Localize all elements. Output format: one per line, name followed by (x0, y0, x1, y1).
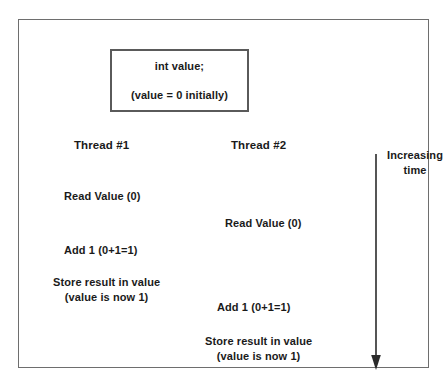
thread-2-header: Thread #2 (231, 139, 286, 151)
diagram-frame: int value; (value = 0 initially) Thread … (18, 19, 429, 368)
thread-1-step-store-result: Store result in value (value is now 1) (53, 275, 160, 305)
increasing-time-label-line-1: Increasing (385, 148, 445, 163)
thread-1-step-add-one: Add 1 (0+1=1) (64, 243, 137, 258)
increasing-time-arrow-icon (369, 152, 383, 372)
increasing-time-label: Increasing time (385, 148, 445, 178)
shared-variable-declaration: int value; (155, 60, 204, 73)
thread-2-step-add-one: Add 1 (0+1=1) (217, 300, 290, 315)
thread-1-header: Thread #1 (74, 139, 129, 151)
shared-variable-initial-note: (value = 0 initially) (131, 89, 228, 102)
thread-1-store-line-2: (value is now 1) (53, 290, 160, 305)
thread-2-store-line-2: (value is now 1) (205, 349, 312, 364)
increasing-time-label-line-2: time (385, 163, 445, 178)
thread-1-step-read-value: Read Value (0) (64, 189, 141, 204)
thread-1-store-line-1: Store result in value (53, 276, 160, 288)
thread-2-step-store-result: Store result in value (value is now 1) (205, 334, 312, 364)
shared-variable-box: int value; (value = 0 initially) (110, 49, 249, 112)
thread-2-step-read-value: Read Value (0) (225, 216, 302, 231)
thread-2-store-line-1: Store result in value (205, 335, 312, 347)
